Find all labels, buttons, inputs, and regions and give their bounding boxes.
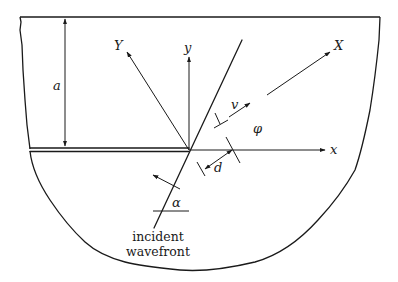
caption-line-2: wavefront bbox=[126, 244, 190, 259]
depth-label: a bbox=[53, 78, 61, 93]
wavefront-caption: incident wavefront bbox=[126, 229, 190, 259]
wavefront-diagram: a x y Y X v φ d bbox=[0, 0, 398, 282]
x-axis: x bbox=[189, 142, 338, 157]
rotated-y-label: Y bbox=[114, 38, 124, 53]
angle-alpha: α bbox=[153, 195, 189, 211]
distance-label: d bbox=[214, 160, 222, 175]
y-axis: y bbox=[183, 40, 192, 150]
angle-label: α bbox=[172, 195, 181, 210]
potential-label: φ bbox=[253, 121, 263, 136]
y-axis-label: y bbox=[183, 40, 192, 55]
rotated-x-label: X bbox=[333, 38, 344, 53]
x-axis-label: x bbox=[330, 142, 338, 157]
perpendicular-mark bbox=[214, 113, 228, 128]
crack-surface bbox=[30, 148, 189, 152]
depth-dimension: a bbox=[53, 19, 65, 146]
caption-line-1: incident bbox=[132, 229, 184, 244]
velocity-arrow: v bbox=[229, 97, 250, 117]
velocity-label: v bbox=[231, 97, 239, 112]
rotated-x-axis: X bbox=[267, 38, 344, 95]
rotated-y-axis: Y bbox=[114, 38, 189, 150]
distance-dimension: d bbox=[197, 137, 240, 176]
incident-wavefront-line bbox=[154, 40, 242, 228]
